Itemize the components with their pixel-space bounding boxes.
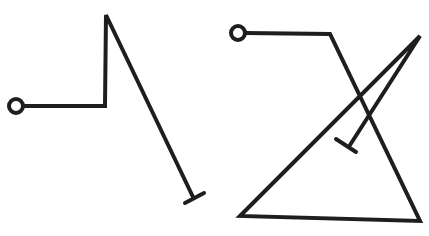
start-circle-icon: [9, 99, 23, 113]
diagram-svg: [0, 0, 429, 236]
diagram-canvas: [0, 0, 429, 236]
start-circle-icon: [231, 26, 245, 40]
end-bar-icon: [185, 193, 204, 203]
figure-path: [23, 15, 193, 197]
left-figure: [9, 15, 204, 203]
figure-path: [240, 33, 420, 221]
right-figure: [231, 26, 420, 221]
